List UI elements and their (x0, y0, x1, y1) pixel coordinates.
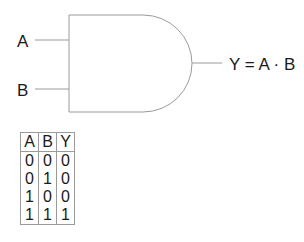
cell: 0 (57, 188, 75, 206)
table-row: 0 0 0 (21, 152, 75, 171)
header-b: B (39, 133, 57, 152)
cell: 0 (21, 152, 39, 171)
input-b-label: B (17, 82, 28, 99)
table-row: 1 1 1 (21, 206, 75, 225)
cell: 1 (21, 206, 39, 225)
cell: 0 (21, 170, 39, 188)
header-y: Y (57, 133, 75, 152)
table-row: 0 1 0 (21, 170, 75, 188)
cell: 0 (57, 170, 75, 188)
cell: 0 (39, 188, 57, 206)
truth-table: A B Y 0 0 0 0 1 0 1 0 0 1 1 1 (20, 132, 75, 225)
cell: 0 (57, 152, 75, 171)
cell: 1 (21, 188, 39, 206)
cell: 1 (57, 206, 75, 225)
header-a: A (21, 133, 39, 152)
cell: 1 (39, 170, 57, 188)
output-label: Y = A · B (229, 56, 295, 73)
and-gate-body (69, 15, 192, 112)
truth-table-header: A B Y (21, 133, 75, 152)
table-row: 1 0 0 (21, 188, 75, 206)
cell: 0 (39, 152, 57, 171)
cell: 1 (39, 206, 57, 225)
input-a-label: A (17, 33, 28, 50)
